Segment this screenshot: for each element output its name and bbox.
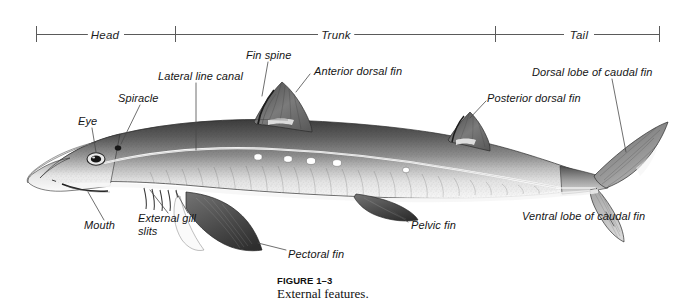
label-lateral-line-canal: Lateral line canal (158, 70, 243, 83)
label-dorsal-lobe-caudal-fin: Dorsal lobe of caudal fin (532, 66, 653, 79)
label-spiracle: Spiracle (118, 92, 159, 105)
leader-anterior-dorsal-fin (296, 74, 310, 92)
external-gill-slits (144, 188, 178, 211)
figure-canvas: Head Trunk Tail (0, 0, 695, 307)
leader-posterior-dorsal-fin (470, 101, 486, 118)
leader-pectoral-fin (258, 243, 286, 250)
leader-gill-slits-a (150, 190, 168, 213)
label-posterior-dorsal-fin: Posterior dorsal fin (487, 92, 581, 105)
leader-mouth (88, 192, 104, 220)
eye (87, 153, 105, 165)
label-mouth: Mouth (84, 219, 115, 232)
label-anterior-dorsal-fin: Anterior dorsal fin (314, 65, 402, 78)
shark-illustration (0, 0, 695, 307)
label-pectoral-fin: Pectoral fin (288, 248, 344, 261)
shark-body (20, 82, 668, 251)
spiracle (115, 146, 121, 151)
figure-caption: External features. (277, 286, 369, 302)
label-external-gill-slits: External gill slits (138, 212, 198, 237)
label-ventral-lobe-caudal-fin: Ventral lobe of caudal fin (522, 210, 645, 223)
figure-number: FIGURE 1–3 (277, 275, 332, 286)
leader-fin-spine (262, 62, 268, 96)
label-fin-spine: Fin spine (246, 49, 292, 62)
label-eye: Eye (78, 115, 97, 128)
dorsal-lobe-caudal-fin (594, 122, 668, 188)
leader-dorsal-lobe-caudal-fin (612, 79, 626, 152)
label-pelvic-fin: Pelvic fin (411, 219, 456, 232)
